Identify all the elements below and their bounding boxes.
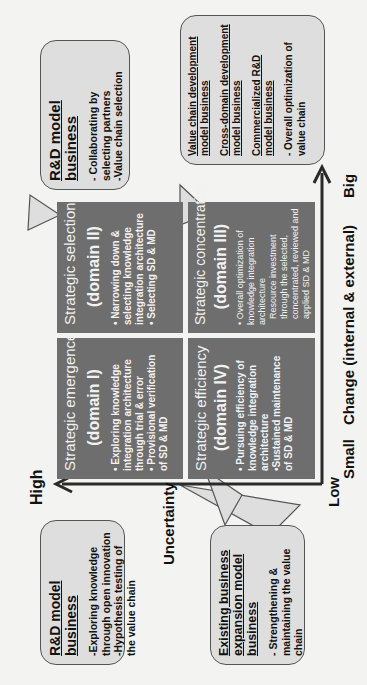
domain-ii-title: Strategic selection bbox=[61, 208, 78, 325]
callout-line: - Strengthening & maintaining the value … bbox=[267, 534, 305, 656]
domain-i-bullets: • Exploring knowledge integration archit… bbox=[110, 344, 170, 471]
domain-iii-subtitle: (domain III) bbox=[211, 208, 231, 325]
callout-domain-iii-item: Commercialized R&D model business bbox=[251, 24, 275, 156]
domain-iii-bullet: • Overall optimization of knowledge inte… bbox=[235, 208, 268, 325]
axis-label-big: Big bbox=[340, 174, 357, 198]
domain-i-title: Strategic emergence bbox=[61, 344, 78, 471]
domain-iv-title: Strategic efficiency bbox=[192, 344, 209, 471]
domain-i-subtitle: (domain I) bbox=[84, 344, 104, 471]
axis-label-uncertainty: Uncertainty bbox=[160, 482, 177, 565]
domain-iii-title: Strategic concentration bbox=[192, 208, 209, 325]
callout-line: -Exploring knowledge through open innova… bbox=[87, 529, 112, 656]
axis-label-low: Low bbox=[325, 477, 342, 507]
domain-ii-box: Strategic selection (domain II) • Narrow… bbox=[57, 202, 183, 333]
callout-domain-iii: Value chain development model business C… bbox=[180, 15, 325, 165]
domain-iv-box: Strategic efficiency (domain IV) • Pursu… bbox=[188, 338, 315, 479]
callout-domain-ii-heading: R&D model business bbox=[47, 49, 79, 181]
callout-domain-ii: R&D model business - Collaborating by se… bbox=[40, 40, 130, 190]
diagram-canvas: Strategic emergence (domain I) • Explori… bbox=[0, 0, 367, 685]
callout-pointer-domain-ii bbox=[28, 195, 60, 230]
callout-line: - Overall optimization of value chain bbox=[283, 24, 308, 156]
callout-domain-iii-item: Value chain development model business bbox=[187, 24, 211, 156]
callout-domain-iv-heading: Existing business expansion model busine… bbox=[217, 534, 259, 656]
domain-i-bullet: • Provisional verification of SD & MD bbox=[146, 344, 170, 471]
callout-line: - Collaborating by selecting partners bbox=[87, 49, 112, 181]
domain-iii-box: Strategic concentration (domain III) • O… bbox=[188, 202, 315, 333]
domain-iii-bullets: • Overall optimization of knowledge inte… bbox=[235, 208, 312, 325]
axis-label-high: High bbox=[28, 469, 46, 505]
callout-domain-i-text: -Exploring knowledge through open innova… bbox=[87, 529, 137, 656]
callout-domain-i-heading: R&D model business bbox=[47, 529, 79, 656]
domain-iv-bullet: •Sustained maintenance of SD & MD bbox=[271, 344, 295, 471]
callout-line: -Value chain selection bbox=[112, 49, 125, 181]
callout-domain-iii-item: Cross-domain development model business bbox=[219, 24, 243, 156]
callout-domain-ii-text: - Collaborating by selecting partners -V… bbox=[87, 49, 125, 181]
callout-domain-i: R&D model business -Exploring knowledge … bbox=[40, 520, 125, 665]
axis-label-small: Small bbox=[340, 439, 357, 479]
callout-domain-iv-text: - Strengthening & maintaining the value … bbox=[267, 534, 305, 656]
callout-line: -Hypothesis testing of the value chain bbox=[112, 529, 137, 656]
callout-domain-iv: Existing business expansion model busine… bbox=[210, 525, 305, 665]
domain-ii-bullet: • Selecting SD & MD bbox=[146, 208, 158, 325]
callout-domain-iii-text: - Overall optimization of value chain bbox=[283, 24, 308, 156]
domain-i-bullet: • Exploring knowledge integration archit… bbox=[110, 344, 146, 471]
domain-iii-bullet: Resource investment through the selected… bbox=[268, 208, 312, 325]
domain-ii-bullet: • Narrowing down & selecting knowledge i… bbox=[110, 208, 146, 325]
domain-ii-bullets: • Narrowing down & selecting knowledge i… bbox=[110, 208, 158, 325]
domain-iv-bullets: • Pursuing efficiency of knowledge integ… bbox=[235, 344, 295, 471]
domain-i-box: Strategic emergence (domain I) • Explori… bbox=[57, 338, 183, 479]
domain-ii-subtitle: (domain II) bbox=[84, 208, 104, 325]
domain-iv-bullet: • Pursuing efficiency of knowledge integ… bbox=[235, 344, 271, 471]
domain-iv-subtitle: (domain IV) bbox=[211, 344, 231, 471]
axis-label-change: Change (internal & external) bbox=[340, 225, 357, 425]
